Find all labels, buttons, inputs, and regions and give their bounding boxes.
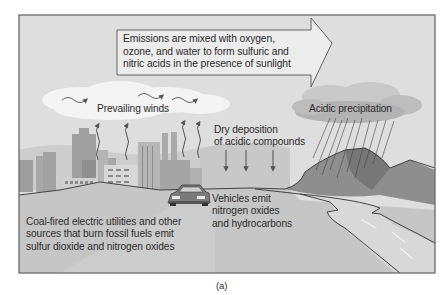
dry-deposition-label: Dry deposition of acidic compounds: [214, 124, 305, 149]
vehicles-line-3: and hydrocarbons: [212, 218, 292, 230]
coal-line-2: sources that burn fossil fuels emit: [26, 228, 181, 240]
background-hill-right: [200, 142, 290, 190]
prevailing-winds-label: Prevailing winds: [97, 103, 169, 115]
acidic-precipitation-label: Acidic precipitation: [309, 103, 392, 115]
figure-caption: (a): [216, 280, 227, 292]
emissions-line-2: ozone, and water to form sulfuric and: [123, 46, 291, 59]
coal-line-1: Coal-fired electric utilities and other: [26, 216, 181, 228]
dry-deposition-line-2: of acidic compounds: [214, 136, 305, 148]
vehicles-label: Vehicles emit nitrogen oxides and hydroc…: [212, 193, 292, 230]
emissions-description: Emissions are mixed with oxygen, ozone, …: [123, 33, 291, 71]
emissions-line-3: nitric acids in the presence of sunlight: [123, 58, 291, 71]
emissions-line-1: Emissions are mixed with oxygen,: [123, 33, 291, 46]
vehicles-line-2: nitrogen oxides: [212, 205, 292, 217]
coal-line-3: sulfur dioxide and nitrogen oxides: [26, 241, 181, 253]
vehicles-line-1: Vehicles emit: [212, 193, 292, 205]
dry-deposition-line-1: Dry deposition: [214, 124, 305, 136]
coal-fired-label: Coal-fired electric utilities and other …: [26, 216, 181, 253]
